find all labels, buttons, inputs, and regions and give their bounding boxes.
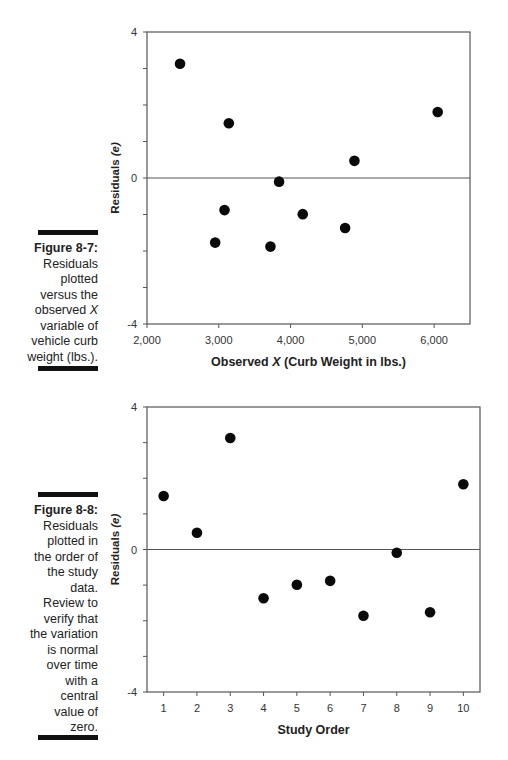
data-point [192,527,203,538]
data-point [325,576,336,587]
x-axis-label: Observed X (Curb Weight in lbs.) [211,355,406,369]
data-point [219,205,230,216]
x-tick-label: 6,000 [420,334,448,346]
residuals-vs-curb-weight-chart: 40-42,0003,0004,0005,0006,000Residuals (… [0,0,508,380]
data-point [425,607,436,618]
x-tick-label: 9 [427,702,433,714]
x-tick-label: 5,000 [349,334,377,346]
x-tick-label: 7 [360,702,366,714]
data-point [458,479,469,490]
x-tick-label: 3 [227,702,233,714]
y-tick-label: -4 [127,686,137,698]
y-tick-label: 4 [131,401,137,413]
x-tick-label: 10 [457,702,469,714]
x-tick-label: 2 [194,702,200,714]
data-point [432,107,443,118]
x-tick-label: 3,000 [205,334,233,346]
x-axis-label: Study Order [277,723,349,737]
x-tick-label: 8 [394,702,400,714]
x-tick-label: 6 [327,702,333,714]
x-tick-label: 4 [260,702,266,714]
data-point [158,491,169,502]
data-point [358,610,369,621]
y-axis-label: Residuals (e) [109,514,121,586]
y-tick-label: 0 [131,544,137,556]
y-tick-label: 4 [131,26,137,38]
data-point [297,209,308,220]
y-tick-label: 0 [131,172,137,184]
data-point [210,237,221,248]
data-point [265,241,276,252]
data-point [391,547,402,558]
x-tick-label: 5 [294,702,300,714]
y-axis-label: Residuals (e) [109,142,121,214]
data-point [292,579,303,590]
data-point [224,118,235,129]
data-point [340,223,351,234]
data-point [349,156,360,167]
data-point [225,433,236,444]
x-tick-label: 2,000 [133,334,161,346]
y-tick-label: -4 [127,318,137,330]
data-point [274,176,285,187]
data-point [175,58,186,69]
x-tick-label: 1 [161,702,167,714]
residuals-vs-study-order-chart: 40-412345678910Residuals (e)Study Order [0,380,508,760]
data-point [258,593,269,604]
x-tick-label: 4,000 [277,334,305,346]
